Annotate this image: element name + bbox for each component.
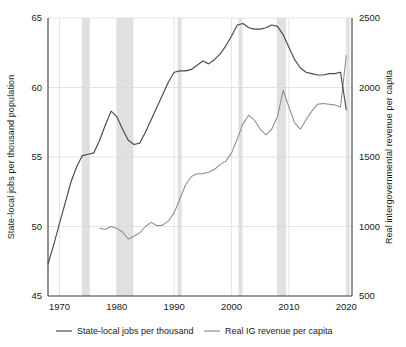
x-axis-tick-label: 2000 (221, 301, 242, 312)
y-axis-right-tick-label: 500 (359, 290, 375, 301)
x-axis-tick-label: 1990 (164, 301, 185, 312)
y-axis-left-tick-label: 45 (31, 290, 42, 301)
y-axis-right-ticks: 5001000150020002500 (359, 12, 380, 301)
x-axis-tick-label: 2010 (278, 301, 299, 312)
y-axis-left-tick-label: 65 (31, 12, 42, 23)
chart-legend: State-local jobs per thousand Real IG re… (56, 326, 333, 336)
x-axis-tick-label: 1970 (49, 301, 70, 312)
x-axis-tick-label: 1980 (106, 301, 127, 312)
y-axis-right-tick-label: 1000 (359, 221, 380, 232)
y-axis-right-title: Real intergovernmental revenue per capit… (384, 70, 394, 244)
series-line-state-local-jobs (48, 24, 346, 264)
y-axis-right-tick-label: 2000 (359, 82, 380, 93)
y-axis-left-tick-label: 50 (31, 221, 42, 232)
gridlines-group (48, 18, 352, 296)
y-axis-left-title: State-local jobs per thousand population (6, 75, 16, 240)
legend-label-real-ig-revenue: Real IG revenue per capita (225, 326, 333, 336)
dual-axis-line-chart: 4550556065 5001000150020002500 197019801… (0, 0, 406, 347)
legend-label-state-local-jobs: State-local jobs per thousand (77, 326, 194, 336)
series-line-real-ig-revenue (100, 56, 347, 239)
y-axis-left-tick-label: 55 (31, 151, 42, 162)
y-axis-left-tick-label: 60 (31, 82, 42, 93)
x-axis-tick-label: 2020 (336, 301, 357, 312)
chart-container: 4550556065 5001000150020002500 197019801… (0, 0, 406, 347)
y-axis-right-tick-label: 2500 (359, 12, 380, 23)
y-axis-right-tick-label: 1500 (359, 151, 380, 162)
y-axis-left-ticks: 4550556065 (31, 12, 42, 301)
x-axis-ticks: 197019801990200020102020 (49, 301, 357, 312)
